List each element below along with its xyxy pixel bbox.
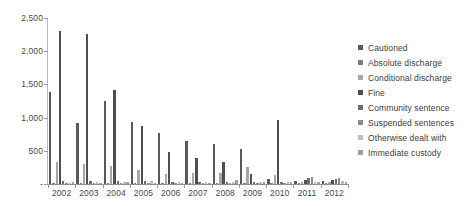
bar (219, 173, 221, 184)
bar (123, 182, 125, 184)
legend-item[interactable]: Conditional discharge (358, 70, 472, 85)
bar (208, 183, 210, 184)
legend-label: Absolute discharge (368, 58, 442, 68)
bar (301, 182, 303, 184)
bar-group (103, 18, 130, 184)
bar (113, 90, 115, 184)
bar (307, 178, 309, 184)
bar (56, 162, 58, 184)
bar (198, 182, 200, 184)
legend-item[interactable]: Community sentence (358, 100, 472, 115)
bar-group (48, 18, 75, 184)
bar (126, 182, 128, 184)
bar (322, 181, 324, 184)
bar (328, 182, 330, 184)
bar (253, 182, 255, 184)
legend-item[interactable]: Cautioned (358, 40, 472, 55)
bar (181, 183, 183, 184)
bar (298, 183, 300, 184)
legend-label: Suspended sentences (368, 118, 454, 128)
bar-group (157, 18, 184, 184)
bar (174, 183, 176, 184)
bar (283, 183, 285, 184)
bar (89, 181, 91, 184)
x-axis-line (47, 184, 348, 185)
bar (263, 182, 265, 184)
legend-label: Conditional discharge (368, 73, 452, 83)
bar (165, 174, 167, 184)
legend-label: Cautioned (368, 43, 408, 53)
x-axis-label: 2009 (239, 188, 266, 198)
bar (96, 182, 98, 184)
bar (93, 183, 95, 184)
bar-group (212, 18, 239, 184)
legend-swatch-icon (358, 135, 363, 140)
legend-label: Otherwise dealt with (368, 133, 447, 143)
x-axis-label: 2010 (266, 188, 293, 198)
bar (256, 183, 258, 184)
legend-swatch-icon (358, 105, 363, 110)
bar (287, 182, 289, 184)
bar (325, 183, 327, 184)
bar (338, 178, 340, 184)
bar (120, 183, 122, 184)
y-axis-tick-label: 1,500 (21, 79, 43, 89)
x-axis-label: 2004 (103, 188, 130, 198)
bar (277, 120, 279, 184)
bar-chart: 2,5002,0001,5001,000500- 200220032004200… (0, 0, 472, 206)
legend-item[interactable]: Immediate custody (358, 145, 472, 160)
bar (314, 182, 316, 184)
bar (178, 182, 180, 184)
bar (290, 182, 292, 184)
bar (270, 183, 272, 184)
bar (131, 122, 133, 184)
legend-label: Community sentence (368, 103, 450, 113)
legend-item[interactable]: Fine (358, 85, 472, 100)
bar (86, 34, 88, 184)
bar (331, 180, 333, 184)
bar (107, 183, 109, 184)
bar (65, 183, 67, 184)
bar (250, 174, 252, 184)
legend-item[interactable]: Absolute discharge (358, 55, 472, 70)
legend-swatch-icon (358, 90, 363, 95)
bar (267, 179, 269, 184)
legend-item[interactable]: Otherwise dealt with (358, 130, 472, 145)
bar (294, 181, 296, 184)
legend-swatch-icon (358, 150, 363, 155)
bar (240, 149, 242, 184)
bar (235, 180, 237, 184)
y-axis-tick-label: 500 (29, 146, 43, 156)
x-axis-labels: 2002200320042005200620072008200920102011… (48, 188, 348, 198)
bar (52, 183, 54, 184)
bar (280, 182, 282, 184)
x-axis-label: 2012 (321, 188, 348, 198)
bar (311, 177, 313, 184)
bar (158, 133, 160, 184)
chart-legend: CautionedAbsolute dischargeConditional d… (358, 40, 472, 160)
bar (205, 182, 207, 184)
bar (192, 173, 194, 184)
bar (144, 181, 146, 184)
bar (335, 179, 337, 184)
bar (341, 181, 343, 184)
bar-group (239, 18, 266, 184)
legend-swatch-icon (358, 75, 363, 80)
x-axis-label: 2003 (75, 188, 102, 198)
bar-group (75, 18, 102, 184)
y-axis-tick-label: - (40, 179, 43, 189)
legend-swatch-icon (358, 60, 363, 65)
bar (161, 183, 163, 184)
bar (141, 126, 143, 184)
x-axis-tick-mark (348, 184, 349, 188)
y-axis-tick-label: 1,000 (21, 113, 43, 123)
plot-area: 2,5002,0001,5001,000500- (48, 18, 348, 184)
bar-group (293, 18, 320, 184)
y-axis-tick-label: 2,500 (21, 13, 43, 23)
bar (304, 180, 306, 184)
bar (80, 183, 82, 184)
legend-item[interactable]: Suspended sentences (358, 115, 472, 130)
x-axis-label: 2006 (157, 188, 184, 198)
bar-groups (48, 18, 348, 184)
x-axis-label: 2008 (212, 188, 239, 198)
